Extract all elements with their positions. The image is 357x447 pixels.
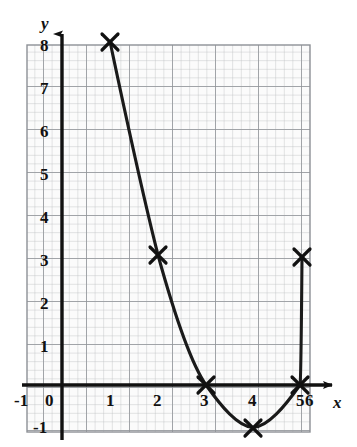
x-tick-label-4: 4 [248, 392, 257, 409]
x-tick-label-3: 3 [200, 392, 209, 409]
y-tick-label-1: 1 [40, 338, 49, 355]
grid-area [27, 45, 310, 432]
y-tick-label-3: 3 [40, 252, 49, 269]
y-tick-label-minus1: -1 [33, 419, 47, 436]
y-axis-label: y [41, 14, 49, 34]
y-tick-label-7: 7 [40, 80, 49, 97]
y-tick-label-4: 4 [40, 209, 49, 226]
x-tick-label-2: 2 [153, 392, 162, 409]
y-tick-label-8: 8 [40, 37, 49, 54]
y-tick-label-5: 5 [40, 166, 49, 183]
x-tick-label-1: 1 [106, 392, 115, 409]
x-tick-label-minus1: -1 [14, 392, 28, 409]
coordinate-plot-svg [0, 0, 357, 447]
y-tick-label-2: 2 [40, 295, 49, 312]
graph-figure: y x 8 7 6 5 4 3 2 1 -1 -1 0 1 2 3 4 5 [0, 0, 357, 447]
x-tick-label-6: 6 [305, 392, 314, 409]
grid-lines [27, 45, 310, 432]
x-tick-label-5: 5 [296, 392, 305, 409]
x-tick-label-0: 0 [45, 392, 54, 409]
x-axis-label: x [333, 393, 342, 413]
y-tick-label-6: 6 [40, 123, 49, 140]
